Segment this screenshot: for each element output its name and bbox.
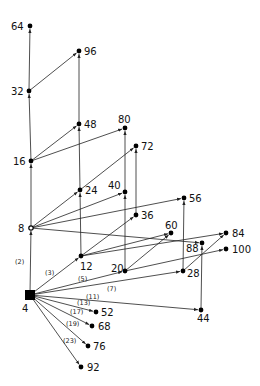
node-label-52: 52 xyxy=(101,307,114,318)
node-96 xyxy=(77,49,82,54)
node-4 xyxy=(25,290,35,300)
edge-4-to-8 xyxy=(30,231,31,290)
node-76 xyxy=(86,344,91,349)
edge-label: (5) xyxy=(78,275,87,283)
node-72 xyxy=(134,144,139,149)
node-60 xyxy=(169,231,174,236)
node-label-80: 80 xyxy=(118,114,131,125)
node-28 xyxy=(181,269,186,274)
node-100 xyxy=(224,247,229,252)
node-40 xyxy=(123,190,128,195)
edge-16-to-48 xyxy=(33,126,77,160)
node-label-92: 92 xyxy=(87,362,100,373)
edge-8-to-56 xyxy=(33,199,181,228)
edge-label: (17) xyxy=(70,308,83,316)
node-80 xyxy=(123,126,128,131)
edge-label: (23) xyxy=(63,337,76,345)
edge-20-to-100 xyxy=(127,250,223,271)
node-label-44: 44 xyxy=(197,313,210,324)
node-label-40: 40 xyxy=(108,180,121,191)
node-52 xyxy=(94,310,99,315)
edge-label: (13) xyxy=(77,299,90,307)
node-56 xyxy=(182,196,187,201)
node-label-76: 76 xyxy=(93,341,106,352)
edge-8-to-24 xyxy=(33,192,78,227)
edge-16-to-32 xyxy=(29,94,31,159)
node-label-88: 88 xyxy=(186,243,199,254)
edge-16-to-80 xyxy=(33,129,122,160)
node-88 xyxy=(200,241,205,246)
node-8 xyxy=(29,226,33,230)
node-label-64: 64 xyxy=(11,21,24,32)
edge-32-to-96 xyxy=(31,53,77,90)
edge-label: (2) xyxy=(15,258,24,266)
node-48 xyxy=(77,122,82,127)
node-label-36: 36 xyxy=(141,210,154,221)
node-label-16: 16 xyxy=(13,156,26,167)
node-label-8: 8 xyxy=(18,223,24,234)
node-64 xyxy=(28,24,33,29)
node-label-68: 68 xyxy=(98,321,111,332)
node-12 xyxy=(79,254,84,259)
node-16 xyxy=(29,159,34,164)
node-36 xyxy=(134,213,139,218)
node-68 xyxy=(90,324,95,329)
node-44 xyxy=(199,308,204,313)
edge-20-to-60 xyxy=(127,235,169,270)
graph-svg: (2)(3)(5)(7)(11)(13)(17)(19)(23) 4812162… xyxy=(0,0,260,386)
node-label-32: 32 xyxy=(11,86,24,97)
node-label-96: 96 xyxy=(84,46,97,57)
node-24 xyxy=(78,188,83,193)
edge-12-to-24 xyxy=(80,193,81,254)
node-label-48: 48 xyxy=(84,119,97,130)
node-label-layer: 4812162024283236404448525660646872768084… xyxy=(11,21,251,373)
edge-4-to-12 xyxy=(34,258,79,292)
node-84 xyxy=(224,231,229,236)
edge-label: (19) xyxy=(66,320,79,328)
node-label-60: 60 xyxy=(165,220,178,231)
node-label-84: 84 xyxy=(232,228,245,239)
node-32 xyxy=(27,89,32,94)
node-label-12: 12 xyxy=(80,261,93,272)
node-label-56: 56 xyxy=(189,193,202,204)
node-label-24: 24 xyxy=(85,185,98,196)
node-label-72: 72 xyxy=(141,141,154,152)
node-label-100: 100 xyxy=(232,244,251,255)
node-label-20: 20 xyxy=(111,263,124,274)
node-label-4: 4 xyxy=(22,303,28,314)
node-label-28: 28 xyxy=(187,268,200,279)
edge-label: (7) xyxy=(107,285,116,293)
edge-24-to-48 xyxy=(79,127,80,188)
node-92 xyxy=(79,365,84,370)
edge-28-to-56 xyxy=(183,201,184,269)
edge-8-to-40 xyxy=(33,193,122,227)
edge-label: (3) xyxy=(45,269,54,277)
factor-graph-diagram: (2)(3)(5)(7)(11)(13)(17)(19)(23) 4812162… xyxy=(0,0,260,386)
edge-32-to-64 xyxy=(29,29,30,89)
